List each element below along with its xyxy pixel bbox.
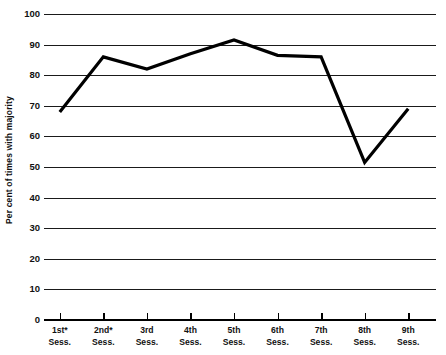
y-axis-tick-label: 10 bbox=[16, 284, 40, 294]
x-axis-tick-label: 9thSess. bbox=[378, 325, 438, 348]
x-axis-tick bbox=[365, 313, 366, 320]
y-axis-tick-label: 90 bbox=[16, 40, 40, 50]
x-axis-tick-label-line1: 2nd* bbox=[94, 325, 113, 335]
x-axis-tick-label-line1: 1st* bbox=[52, 325, 68, 335]
plot-area bbox=[44, 14, 436, 320]
y-axis-tick-label: 70 bbox=[16, 101, 40, 111]
x-axis-tick bbox=[103, 313, 104, 320]
y-axis-tick-label: 40 bbox=[16, 193, 40, 203]
y-axis-tick-label: 100 bbox=[16, 9, 40, 19]
x-axis-tick-label-line1: 5th bbox=[228, 325, 241, 335]
x-axis-tick bbox=[278, 313, 279, 320]
x-axis-tick bbox=[190, 313, 191, 320]
x-axis-tick-label-line1: 7th bbox=[315, 325, 328, 335]
data-series-line bbox=[44, 14, 436, 320]
x-axis-tick-label-line1: 6th bbox=[271, 325, 284, 335]
y-axis-tick-labels: 1009080706050403020100 bbox=[10, 0, 40, 355]
x-axis-tick bbox=[408, 313, 409, 320]
x-axis-tick bbox=[147, 313, 148, 320]
x-axis-tick-label-line2: Sess. bbox=[378, 337, 438, 349]
x-axis-tick-label-line1: 3rd bbox=[140, 325, 153, 335]
x-axis-tick-label-line1: 8th bbox=[358, 325, 371, 335]
y-axis-tick-label: 60 bbox=[16, 131, 40, 141]
y-axis-tick-label: 20 bbox=[16, 254, 40, 264]
y-axis-tick-label: 30 bbox=[16, 223, 40, 233]
x-axis-tick-label-line1: 9th bbox=[402, 325, 415, 335]
x-axis-tick bbox=[234, 313, 235, 320]
y-axis-tick-label: 50 bbox=[16, 162, 40, 172]
x-axis-tick bbox=[321, 313, 322, 320]
x-axis-tick bbox=[60, 313, 61, 320]
y-axis-tick-label: 80 bbox=[16, 70, 40, 80]
chart-container: Per cent of times with majority 10090807… bbox=[0, 0, 446, 355]
y-axis-tick-label: 0 bbox=[16, 315, 40, 325]
x-axis-tick-label-line1: 4th bbox=[184, 325, 197, 335]
